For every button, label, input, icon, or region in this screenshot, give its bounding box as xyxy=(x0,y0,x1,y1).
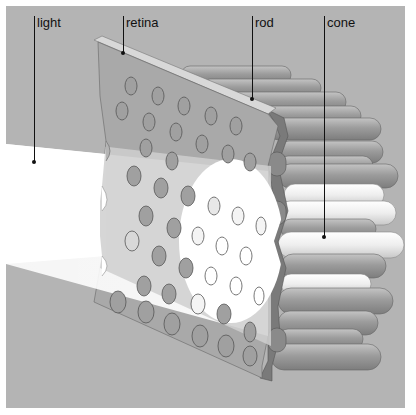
retina-leader-line xyxy=(123,16,124,54)
light-leader-line xyxy=(34,16,35,162)
light-leader-dot xyxy=(32,160,36,164)
rod-leader-dot xyxy=(250,97,254,101)
retina-leader-dot xyxy=(121,51,125,55)
retina-illustration xyxy=(6,6,405,408)
cone-leader-dot xyxy=(322,235,326,239)
label-retina: retina xyxy=(126,16,159,29)
diagram-panel: light retina rod cone xyxy=(6,6,405,408)
label-light: light xyxy=(37,16,61,29)
cone-leader-line xyxy=(324,16,325,238)
rod-leader-line xyxy=(252,16,253,100)
label-cone: cone xyxy=(327,16,355,29)
label-rod: rod xyxy=(255,16,274,29)
